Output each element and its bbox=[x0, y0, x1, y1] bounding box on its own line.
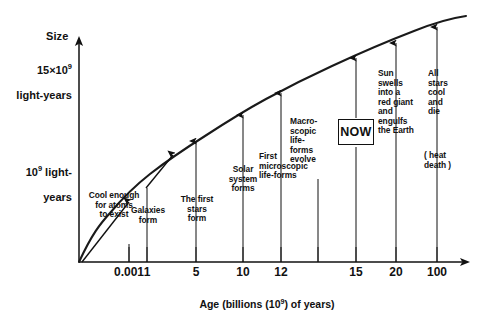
event-label-sun-red-giant: Sun swells into a red giant and engulfs … bbox=[378, 69, 424, 136]
y-axis-label-top-line2: light-years bbox=[16, 89, 72, 101]
x-tick-label-12: 12 bbox=[269, 266, 293, 278]
now-label: NOW bbox=[340, 125, 371, 139]
y-axis-label-mid-line1b: light- bbox=[42, 166, 72, 178]
cosmology-size-vs-age-chart: Size 15×109 light-years 109 light- years… bbox=[0, 0, 479, 311]
x-tick-label-10: 10 bbox=[231, 266, 255, 278]
x-tick-label-1: 1 bbox=[137, 266, 157, 278]
y-axis-label-top: 15×109 light-years bbox=[6, 52, 72, 101]
y-axis-label-mid: 109 light- years bbox=[6, 154, 72, 203]
y-axis-label-mid-line2: years bbox=[43, 191, 72, 203]
event-label-heat-death: ( heat death ) bbox=[424, 151, 468, 170]
x-axis-ticks bbox=[129, 247, 437, 262]
now-marker-box: NOW bbox=[338, 119, 374, 145]
x-axis-title-part2: ) of years) bbox=[284, 298, 334, 310]
y-axis-title: Size bbox=[46, 31, 68, 42]
x-axis-title-part1: Age (billions (10 bbox=[199, 298, 280, 310]
y-axis-label-mid-line1: 10 bbox=[26, 166, 38, 178]
event-label-galaxies-form: Galaxies form bbox=[125, 206, 171, 225]
x-tick-label-100: 100 bbox=[422, 266, 452, 278]
event-label-macroscopic-life-evolve: Macro- scopic life- forms evolve bbox=[290, 117, 320, 165]
y-axis-label-top-exponent: 9 bbox=[68, 63, 72, 72]
x-axis-title: Age (billions (109) of years) bbox=[162, 288, 372, 310]
x-tick-label-5: 5 bbox=[186, 266, 206, 278]
y-axis-label-top-line1: 15×10 bbox=[37, 64, 68, 76]
event-label-all-stars-cool-and-die: All stars cool and die bbox=[428, 69, 462, 117]
event-label-solar-system-forms: Solar system forms bbox=[222, 165, 264, 194]
x-tick-label-15: 15 bbox=[344, 266, 368, 278]
leader-arrow-galaxies-form bbox=[146, 155, 173, 188]
x-tick-label-20: 20 bbox=[384, 266, 408, 278]
event-label-first-stars-form: The first stars form bbox=[174, 195, 220, 224]
